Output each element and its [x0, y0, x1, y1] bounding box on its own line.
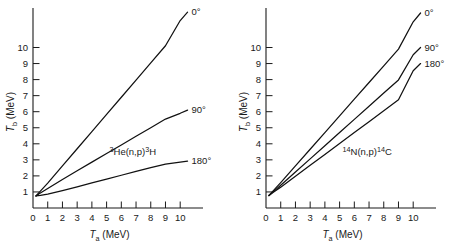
x-axis-tick-label: 2: [60, 212, 65, 223]
plot-right: 123456789100123456789100°90°180°Ta (MeV)…: [233, 0, 466, 244]
y-axis-tick-label: 4: [23, 138, 28, 149]
x-axis-tick-label: 3: [75, 212, 80, 223]
x-axis-title: Ta (MeV): [322, 229, 362, 243]
y-axis-tick-label: 8: [23, 74, 28, 85]
x-axis-tick-label: 5: [337, 212, 342, 223]
x-axis-tick-label: 0: [263, 212, 268, 223]
y-axis-tick-label: 6: [23, 106, 28, 117]
x-axis-tick-label: 4: [89, 212, 94, 223]
y-axis-tick-label: 4: [256, 138, 261, 149]
curve-angle-label: 180°: [192, 155, 212, 166]
x-axis-tick-label: 9: [163, 212, 168, 223]
x-axis-tick-label: 3: [308, 212, 313, 223]
y-axis-tick-label: 9: [23, 58, 28, 69]
y-axis-tick-label: 2: [256, 170, 261, 181]
y-axis-tick-label: 6: [256, 106, 261, 117]
y-axis-tick-label: 2: [23, 170, 28, 181]
x-axis-tick-label: 7: [133, 212, 138, 223]
y-axis-tick-label: 1: [256, 186, 261, 197]
curve-angle-label: 0°: [192, 6, 201, 17]
y-axis-tick-label: 5: [256, 122, 261, 133]
y-axis-tick-label: 8: [256, 74, 261, 85]
data-curve: [36, 161, 188, 196]
x-axis-tick-label: 8: [148, 212, 153, 223]
y-axis-tick-label: 1: [23, 186, 28, 197]
x-axis-tick-label: 1: [45, 212, 50, 223]
y-axis-tick-label: 9: [256, 58, 261, 69]
chart-panel-right: 123456789100123456789100°90°180°Ta (MeV)…: [233, 0, 466, 244]
x-axis-tick-label: 6: [352, 212, 357, 223]
y-axis-tick-label: 7: [23, 90, 28, 101]
curve-angle-label: 180°: [425, 58, 445, 69]
x-axis-tick-label: 9: [396, 212, 401, 223]
x-axis-tick-label: 5: [104, 212, 109, 223]
figure-container: 123456789100123456789100°90°180°Ta (MeV)…: [0, 0, 466, 244]
y-axis-tick-label: 3: [256, 154, 261, 165]
x-axis-tick-label: 8: [381, 212, 386, 223]
x-axis-tick-label: 0: [30, 212, 35, 223]
data-curve: [36, 12, 188, 196]
reaction-annotation: 3He(n,p)3H: [110, 145, 157, 157]
y-axis-title: Tb (MeV): [238, 92, 252, 132]
y-axis-tick-label: 10: [17, 42, 28, 53]
curve-angle-label: 90°: [425, 42, 440, 53]
y-axis-tick-label: 10: [250, 42, 261, 53]
data-curve: [269, 13, 421, 195]
curve-angle-label: 0°: [425, 7, 434, 18]
x-axis-tick-label: 6: [119, 212, 124, 223]
x-axis-title: Ta (MeV): [89, 229, 129, 243]
plot-left: 123456789100123456789100°90°180°Ta (MeV)…: [0, 0, 233, 244]
reaction-annotation: 14N(n,p)14C: [343, 145, 392, 157]
x-axis-tick-label: 4: [322, 212, 327, 223]
y-axis-title: Tb (MeV): [5, 92, 19, 132]
y-axis-tick-label: 5: [23, 122, 28, 133]
x-axis-tick-label: 10: [175, 212, 186, 223]
x-axis-tick-label: 2: [293, 212, 298, 223]
curve-angle-label: 90°: [192, 104, 207, 115]
chart-panel-left: 123456789100123456789100°90°180°Ta (MeV)…: [0, 0, 233, 244]
x-axis-tick-label: 1: [278, 212, 283, 223]
x-axis-tick-label: 7: [366, 212, 371, 223]
data-curve: [269, 48, 421, 196]
x-axis-tick-label: 10: [408, 212, 419, 223]
y-axis-tick-label: 3: [23, 154, 28, 165]
y-axis-tick-label: 7: [256, 90, 261, 101]
